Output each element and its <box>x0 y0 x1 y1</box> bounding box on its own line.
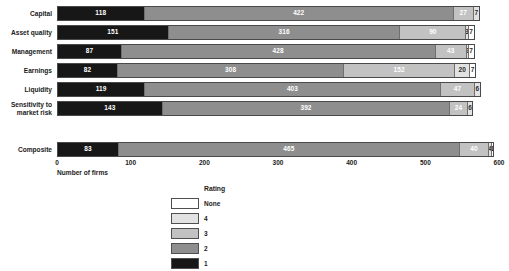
bar-segment: 465 <box>119 143 460 156</box>
bar-row: Sensitivity to market risk143392246 <box>57 101 499 116</box>
legend-label: None <box>204 200 220 207</box>
bar-segment-value: 6 <box>468 105 472 112</box>
bar-segment-value: 7 <box>474 10 478 17</box>
bar-row: Capital118422277 <box>57 6 499 21</box>
bar-segment-value: 308 <box>225 67 236 74</box>
bar-segment-value: 47 <box>454 86 461 93</box>
legend-swatch <box>171 198 199 209</box>
category-label: Asset quality <box>0 29 52 37</box>
bar-segment-value: 151 <box>107 29 118 36</box>
bar-segment-value: 40 <box>470 146 477 153</box>
plot-area: Capital118422277Asset quality1513169037M… <box>57 6 499 157</box>
bar-segment-value: 83 <box>84 146 91 153</box>
legend-label: 4 <box>204 215 208 222</box>
stacked-bar: 143392246 <box>57 101 473 116</box>
bar-segment: 47 <box>441 83 475 96</box>
bar-segment-value: 119 <box>96 86 107 93</box>
bar-segment-value: 143 <box>104 105 115 112</box>
legend-item: 2 <box>171 241 220 255</box>
bar-segment: 40 <box>460 143 489 156</box>
x-axis-tick-label: 100 <box>125 159 136 166</box>
bar-segment: 392 <box>163 102 450 115</box>
bar-segment-value: 403 <box>287 86 298 93</box>
bar-segment-value: 6 <box>476 86 480 93</box>
stacked-bar: 874284327 <box>57 44 475 59</box>
category-label: Management <box>0 48 52 56</box>
legend-swatch <box>171 213 199 224</box>
bar-segment-value: 392 <box>300 105 311 112</box>
x-axis-tick-label: 400 <box>346 159 357 166</box>
x-axis: 0100200300400500600Number of firms <box>57 157 499 179</box>
bar-segment-value: 428 <box>273 48 284 55</box>
bar-segment: 152 <box>344 64 455 77</box>
bar-segment-value: 7 <box>471 67 475 74</box>
legend-label: 3 <box>204 230 208 237</box>
bar-row: Liquidity119403476 <box>57 82 499 97</box>
bar-row: Asset quality1513169037 <box>57 25 499 40</box>
bar-segment-value: 87 <box>86 48 93 55</box>
bar-segment: 24 <box>450 102 468 115</box>
legend-swatch <box>171 228 199 239</box>
bar-segment-value: 43 <box>447 48 454 55</box>
bar-segment: 6 <box>475 83 479 96</box>
stacked-bar: 118422277 <box>57 6 480 21</box>
bar-segment: 151 <box>58 26 169 39</box>
bar-segment: 308 <box>118 64 344 77</box>
bar-segment: 6 <box>468 102 472 115</box>
stacked-bar: 82308152207 <box>57 63 476 78</box>
bar-segment: 27 <box>454 7 474 20</box>
bar-segment: 7 <box>469 26 474 39</box>
bar-segment-value: 90 <box>429 29 436 36</box>
bar-segment: 90 <box>400 26 466 39</box>
bar-row: Management874284327 <box>57 44 499 59</box>
bar-segment: 83 <box>58 143 119 156</box>
bar-segment: 82 <box>58 64 118 77</box>
bar-segment: 143 <box>58 102 163 115</box>
bar-segment: 87 <box>58 45 122 58</box>
bar-segment-value: 152 <box>394 67 405 74</box>
bar-segment: 7 <box>474 7 479 20</box>
legend-item: 4 <box>171 211 220 225</box>
category-label: Liquidity <box>0 86 52 94</box>
x-axis-tick-label: 0 <box>55 159 59 166</box>
bar-segment: 20 <box>455 64 470 77</box>
legend-item: None <box>171 196 220 210</box>
x-axis-tick-label: 600 <box>494 159 505 166</box>
bar-segment-value: 27 <box>460 10 467 17</box>
bar-segment: 119 <box>58 83 145 96</box>
bar-segment: 43 <box>436 45 468 58</box>
legend-title: Rating <box>204 185 225 192</box>
legend-items: None4321 <box>171 196 220 271</box>
bar-segment-value: 24 <box>455 105 462 112</box>
bar-segment-value: 20 <box>458 67 465 74</box>
stacked-bar: 834654041 <box>57 142 494 157</box>
legend-label: 2 <box>204 245 208 252</box>
stacked-bar: 119403476 <box>57 82 481 97</box>
bar-segment-value: 1 <box>492 146 493 153</box>
legend-item: 1 <box>171 256 220 270</box>
category-label: Earnings <box>0 67 52 75</box>
stacked-bar: 1513169037 <box>57 25 475 40</box>
category-label: Capital <box>0 10 52 18</box>
bar-segment-value: 465 <box>283 146 294 153</box>
bar-segment-value: 422 <box>293 10 304 17</box>
bar-segment: 403 <box>145 83 440 96</box>
legend-label: 1 <box>204 260 208 267</box>
x-axis-tick-label: 200 <box>199 159 210 166</box>
bar-segment: 1 <box>492 143 493 156</box>
category-label: Sensitivity to market risk <box>0 101 52 117</box>
bar-segment: 428 <box>122 45 436 58</box>
bar-segment: 118 <box>58 7 145 20</box>
x-axis-title: Number of firms <box>57 169 108 176</box>
bar-segment-value: 316 <box>278 29 289 36</box>
bar-segment-value: 82 <box>84 67 91 74</box>
bar-segment: 7 <box>470 64 475 77</box>
bar-segment-value: 7 <box>469 29 473 36</box>
x-axis-tick-label: 300 <box>273 159 284 166</box>
legend-swatch <box>171 243 199 254</box>
legend-item: 3 <box>171 226 220 240</box>
bar-segment: 422 <box>145 7 454 20</box>
x-axis-tick-label: 500 <box>420 159 431 166</box>
legend-swatch <box>171 258 199 269</box>
